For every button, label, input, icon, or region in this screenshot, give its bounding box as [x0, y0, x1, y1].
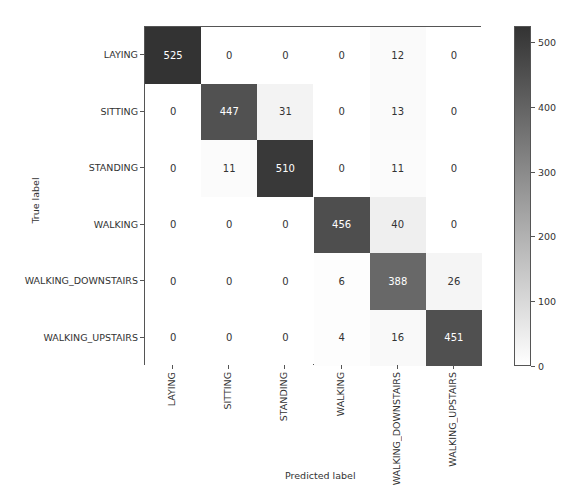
heatmap-cell: 0	[201, 27, 257, 84]
x-tick-mark	[397, 365, 398, 369]
heatmap-cell: 12	[370, 27, 426, 84]
y-tick-label: WALKING_UPSTAIRS	[43, 331, 138, 342]
y-tick-mark	[140, 337, 144, 338]
x-tick-mark	[453, 365, 454, 369]
heatmap-cell: 0	[145, 253, 201, 310]
confusion-matrix-plot: 5250001200447310130011510011000045640000…	[144, 26, 481, 365]
heatmap-cell: 31	[257, 84, 313, 141]
heatmap-cell: 510	[257, 140, 313, 197]
y-tick-label: WALKING_DOWNSTAIRS	[25, 275, 138, 286]
x-tick-label: LAYING	[166, 372, 177, 406]
heatmap-cell: 4	[314, 310, 370, 367]
colorbar-tick-label: 200	[538, 231, 556, 242]
colorbar-tick-label: 100	[538, 296, 556, 307]
heatmap-cell: 11	[370, 140, 426, 197]
colorbar-tick-mark	[531, 172, 535, 173]
heatmap-cell: 13	[370, 84, 426, 141]
x-tick-mark	[228, 365, 229, 369]
colorbar-tick-label: 0	[538, 361, 544, 372]
y-tick-mark	[140, 167, 144, 168]
y-tick-label: STANDING	[89, 162, 138, 173]
colorbar-tick-mark	[531, 301, 535, 302]
heatmap-cell: 0	[257, 253, 313, 310]
heatmap-cell: 0	[426, 27, 482, 84]
heatmap-cell: 0	[426, 84, 482, 141]
colorbar-tick-label: 400	[538, 101, 556, 112]
heatmap-cell: 0	[314, 27, 370, 84]
x-tick-mark	[172, 365, 173, 369]
y-axis-title: True label	[30, 177, 41, 223]
heatmap-cell: 40	[370, 197, 426, 254]
heatmap-cell: 451	[426, 310, 482, 367]
x-tick-mark	[284, 365, 285, 369]
x-axis-title: Predicted label	[285, 470, 356, 481]
heatmap-cell: 0	[145, 197, 201, 254]
x-tick-label: SITTING	[222, 372, 233, 410]
colorbar-tick-label: 300	[538, 166, 556, 177]
x-tick-mark	[341, 365, 342, 369]
colorbar-tick-label: 500	[538, 37, 556, 48]
heatmap-cell: 16	[370, 310, 426, 367]
heatmap-cell: 0	[201, 253, 257, 310]
x-tick-label: WALKING_UPSTAIRS	[447, 372, 458, 467]
heatmap-cell: 0	[257, 27, 313, 84]
x-tick-label: WALKING_DOWNSTAIRS	[391, 372, 402, 485]
colorbar-tick-mark	[531, 366, 535, 367]
heatmap-cell: 6	[314, 253, 370, 310]
y-tick-mark	[140, 54, 144, 55]
heatmap-cell: 0	[145, 310, 201, 367]
y-tick-mark	[140, 111, 144, 112]
heatmap-cell: 0	[314, 84, 370, 141]
heatmap-cell: 0	[201, 310, 257, 367]
heatmap-cell: 388	[370, 253, 426, 310]
x-tick-label: STANDING	[278, 372, 289, 421]
colorbar-tick-mark	[531, 42, 535, 43]
heatmap-cell: 0	[426, 140, 482, 197]
heatmap-cell: 0	[145, 84, 201, 141]
colorbar-tick-mark	[531, 236, 535, 237]
colorbar-tick-mark	[531, 107, 535, 108]
y-tick-label: LAYING	[104, 49, 138, 60]
heatmap-cell: 0	[201, 197, 257, 254]
heatmap-cell: 456	[314, 197, 370, 254]
colorbar	[514, 26, 531, 366]
heatmap-cell: 0	[426, 197, 482, 254]
y-tick-mark	[140, 280, 144, 281]
heatmap-cell: 525	[145, 27, 201, 84]
heatmap-cell: 0	[257, 197, 313, 254]
y-tick-label: SITTING	[100, 105, 138, 116]
heatmap-cell: 447	[201, 84, 257, 141]
heatmap-cell: 0	[257, 310, 313, 367]
y-tick-label: WALKING	[94, 218, 138, 229]
y-tick-mark	[140, 224, 144, 225]
heatmap-cell: 0	[145, 140, 201, 197]
heatmap-cell: 11	[201, 140, 257, 197]
heatmap-cell: 26	[426, 253, 482, 310]
x-tick-label: WALKING	[335, 372, 346, 416]
heatmap-cell: 0	[314, 140, 370, 197]
